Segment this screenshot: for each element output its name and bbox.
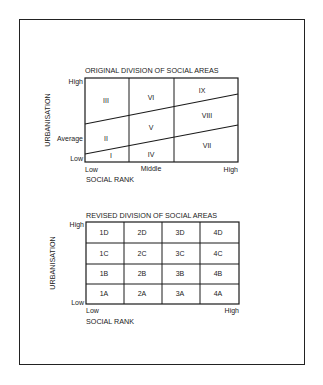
y-tick-high: High <box>69 78 84 86</box>
grid-cell: 2B <box>138 270 147 277</box>
x-tick-low: Low <box>85 166 99 173</box>
area-label: IV <box>148 151 155 158</box>
grid-cell: 4A <box>214 290 223 297</box>
grid-cell: 2D <box>138 229 147 236</box>
y-tick-high: High <box>70 221 85 229</box>
grid-cell: 3B <box>176 270 185 277</box>
original-title: ORIGINAL DIVISION OF SOCIAL AREAS <box>85 66 219 75</box>
area-label: VI <box>148 94 155 101</box>
x-tick-low: Low <box>86 307 100 314</box>
area-label: III <box>103 97 109 104</box>
area-label: VII <box>203 142 212 149</box>
x-axis-label: SOCIAL RANK <box>86 175 134 184</box>
y-tick-low: Low <box>71 299 85 306</box>
area-label: V <box>149 124 154 131</box>
area-label: IX <box>199 87 206 94</box>
grid-cell: 3A <box>176 290 185 297</box>
revised-title: REVISED DIVISION OF SOCIAL AREAS <box>86 211 217 220</box>
grid-cell: 3D <box>176 229 185 236</box>
area-label: I <box>110 152 112 159</box>
grid-cell: 2C <box>138 250 147 257</box>
grid-cell: 4D <box>214 229 223 236</box>
social-areas-diagram: ORIGINAL DIVISION OF SOCIAL AREAS I II I… <box>0 0 323 385</box>
grid-cell: 4C <box>214 250 223 257</box>
x-tick-high: High <box>224 166 239 174</box>
grid-cell: 1D <box>100 229 109 236</box>
x-axis-label: SOCIAL RANK <box>86 317 134 326</box>
y-tick-average: Average <box>57 135 83 143</box>
y-tick-low: Low <box>70 155 84 162</box>
grid-cell: 3C <box>176 250 185 257</box>
grid-cell: 4B <box>214 270 223 277</box>
x-tick-high: High <box>225 307 240 315</box>
y-axis-label: URBANISATION <box>43 93 52 146</box>
grid-cell: 1B <box>100 270 109 277</box>
area-label: VIII <box>202 112 213 119</box>
grid-cell: 2A <box>138 290 147 297</box>
original-division-diagram: ORIGINAL DIVISION OF SOCIAL AREAS I II I… <box>43 66 238 184</box>
area-label: II <box>104 135 108 142</box>
revised-division-diagram: REVISED DIVISION OF SOCIAL AREAS 1D 2D 3… <box>48 211 239 326</box>
grid-cell: 1A <box>100 290 109 297</box>
x-tick-middle: Middle <box>141 165 162 172</box>
grid-cell: 1C <box>100 250 109 257</box>
y-axis-label: URBANISATION <box>48 236 57 289</box>
